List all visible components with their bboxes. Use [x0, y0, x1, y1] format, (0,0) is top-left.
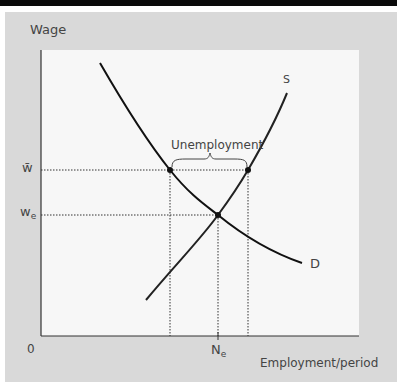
supply-curve: [146, 93, 287, 300]
we-label: we: [20, 204, 36, 219]
demand-label: D: [310, 256, 320, 271]
diagram-canvas: [0, 0, 406, 388]
x-axis-label: Employment/period: [260, 356, 378, 370]
unemployment-label: Unemployment: [171, 138, 263, 152]
wbar-label: w̄: [22, 160, 33, 175]
point-demand-at-wbar: [167, 167, 173, 173]
point-supply-at-wbar: [245, 167, 251, 173]
we-sub: e: [31, 211, 37, 221]
demand-curve: [100, 63, 302, 263]
supply-label: S: [283, 73, 290, 86]
y-axis-label: Wage: [30, 22, 66, 37]
we-main: w: [20, 204, 31, 219]
ne-sub: e: [221, 349, 227, 359]
point-equilibrium: [215, 212, 221, 218]
ne-main: N: [211, 342, 221, 357]
ne-label: Ne: [211, 342, 226, 357]
unemployment-brace: [172, 153, 247, 167]
origin-label: 0: [27, 342, 35, 356]
